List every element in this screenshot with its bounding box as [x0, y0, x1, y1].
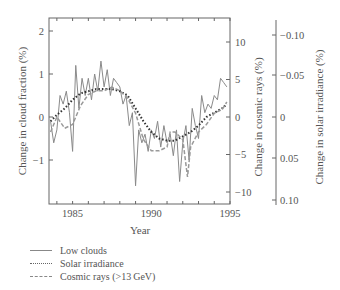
legend-item-solar-irradiance: Solar irradiance — [30, 257, 155, 270]
svg-text:−0.10: −0.10 — [280, 30, 304, 41]
svg-text:0: 0 — [280, 112, 285, 123]
dashed-line-icon — [30, 276, 52, 277]
svg-text:1995: 1995 — [220, 208, 241, 219]
y-axis-left-title: Change in cloud fraction (%) — [16, 47, 29, 176]
legend-label: Cosmic rays (>13 GeV) — [60, 270, 155, 283]
svg-text:10: 10 — [235, 37, 246, 48]
svg-text:0.10: 0.10 — [280, 195, 298, 206]
series-lines — [51, 61, 227, 186]
svg-text:−0.05: −0.05 — [280, 70, 304, 81]
svg-text:5: 5 — [235, 74, 240, 85]
svg-text:−10: −10 — [235, 187, 251, 198]
svg-text:−1: −1 — [33, 155, 44, 166]
svg-text:1985: 1985 — [62, 208, 83, 219]
y-axis-cosmic-title: Change in cosmic rays (%) — [252, 57, 265, 176]
svg-text:1990: 1990 — [141, 208, 162, 219]
svg-text:0: 0 — [39, 112, 44, 123]
svg-text:−5: −5 — [235, 149, 246, 160]
legend-item-cosmic-rays: Cosmic rays (>13 GeV) — [30, 270, 155, 283]
svg-text:1: 1 — [39, 69, 44, 80]
svg-text:0.05: 0.05 — [280, 153, 298, 164]
plot-frame — [49, 18, 230, 204]
x-axis-title: Year — [130, 224, 150, 236]
dotted-line-icon — [30, 263, 52, 264]
legend-label: Low clouds — [60, 244, 107, 257]
svg-text:0: 0 — [235, 112, 240, 123]
y-axis-solar-title: Change in solar irradiance (%) — [313, 49, 326, 184]
legend-item-low-clouds: Low clouds — [30, 244, 155, 257]
legend-label: Solar irradiance — [60, 257, 124, 270]
legend: Low clouds Solar irradiance Cosmic rays … — [30, 244, 155, 283]
solid-line-icon — [30, 250, 52, 251]
svg-text:2: 2 — [39, 26, 44, 37]
